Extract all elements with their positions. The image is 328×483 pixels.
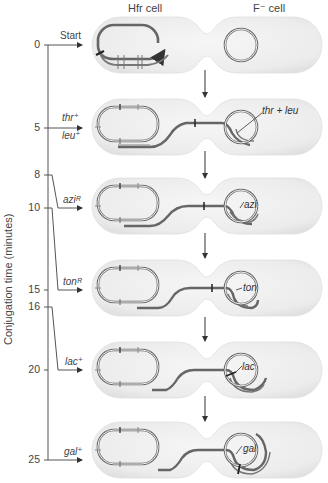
conjugation-diagram <box>0 0 328 483</box>
tick-25: 25 <box>20 453 40 465</box>
marker-gal: gal⁺ <box>64 446 83 457</box>
stage-25-pair <box>92 422 322 478</box>
stage-20-pair <box>92 342 322 398</box>
time-axis <box>44 45 48 460</box>
recipient-gene-lac: lac <box>242 361 255 372</box>
stage-0-pair <box>92 17 322 73</box>
stage-15-pair <box>92 260 322 316</box>
tick-15: 15 <box>20 283 40 295</box>
tick-10: 10 <box>20 201 40 213</box>
branch-lines <box>48 45 82 460</box>
stage-10-pair <box>92 178 322 234</box>
marker-leu: leu⁺ <box>62 130 81 141</box>
axis-title: Conjugation time (minutes) <box>2 214 14 345</box>
tick-16: 16 <box>20 300 40 312</box>
tick-0: 0 <box>20 38 40 50</box>
recipient-gene-azi: azi <box>244 199 257 210</box>
marker-azi: aziᴿ <box>63 194 80 205</box>
marker-ton: tonᴿ <box>63 276 81 287</box>
marker-thr: thr⁺ <box>62 112 79 123</box>
tick-5: 5 <box>20 121 40 133</box>
recipient-gene-thr-leu: thr + leu <box>262 105 298 116</box>
tick-20: 20 <box>20 363 40 375</box>
recipient-gene-ton: ton <box>243 282 257 293</box>
marker-lac: lac⁺ <box>65 356 83 367</box>
marker-start: Start <box>60 30 81 41</box>
tick-8: 8 <box>20 168 40 180</box>
recipient-gene-gal: gal <box>243 443 256 454</box>
